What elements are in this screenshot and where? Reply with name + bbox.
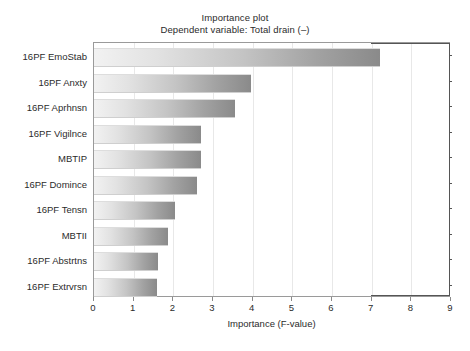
y-axis-tick-label: 16PF Abstrtns: [0, 248, 87, 274]
x-axis-tick-label: 2: [157, 302, 187, 313]
x-axis-tick-label: 6: [316, 302, 346, 313]
importance-plot-chart: Importance plot Dependent variable: Tota…: [0, 0, 470, 351]
bar[interactable]: [94, 278, 157, 297]
x-axis-tick-label: 7: [356, 302, 386, 313]
x-axis-tick: [93, 297, 94, 301]
y-axis-tick-label: 16PF Vigilnce: [0, 121, 87, 147]
x-axis-tick: [212, 297, 213, 301]
x-axis-tick-label: 5: [276, 302, 306, 313]
bar[interactable]: [94, 227, 168, 246]
bar[interactable]: [94, 252, 158, 271]
bar-row[interactable]: [94, 96, 450, 122]
x-axis-tick: [291, 297, 292, 301]
x-axis-tick-label: 1: [118, 302, 148, 313]
bar[interactable]: [94, 125, 201, 144]
x-axis-tick: [331, 297, 332, 301]
x-axis-title: Importance (F-value): [93, 318, 450, 329]
x-axis-tick-label: 0: [78, 302, 108, 313]
bar-row[interactable]: [94, 45, 450, 71]
y-axis-tick-label: MBTII: [0, 223, 87, 249]
plot-area: [93, 42, 450, 297]
y-axis-tick-label: 16PF Domince: [0, 172, 87, 198]
chart-subtitle: Dependent variable: Total drain (–): [0, 24, 470, 36]
y-axis-tick-label: MBTIP: [0, 146, 87, 172]
bar-row[interactable]: [94, 224, 450, 250]
bar[interactable]: [94, 150, 201, 169]
x-axis-tick-label: 3: [197, 302, 227, 313]
x-axis-tick: [172, 297, 173, 301]
x-axis-tick: [410, 297, 411, 301]
y-axis-tick-label: 16PF Aprhnsn: [0, 95, 87, 121]
x-axis-tick-label: 9: [435, 302, 465, 313]
bar[interactable]: [94, 201, 175, 220]
x-axis-tick-label: 4: [237, 302, 267, 313]
y-axis-tick-label: 16PF Anxty: [0, 70, 87, 96]
bar[interactable]: [94, 99, 235, 118]
y-axis-tick-label: 16PF Extrvrsn: [0, 274, 87, 300]
bar-row[interactable]: [94, 173, 450, 199]
x-axis-tick-label: 8: [395, 302, 425, 313]
bar-row[interactable]: [94, 147, 450, 173]
chart-title-block: Importance plot Dependent variable: Tota…: [0, 12, 470, 36]
bar[interactable]: [94, 48, 380, 67]
x-axis-tick: [450, 297, 451, 301]
bar-row[interactable]: [94, 249, 450, 275]
bar-row[interactable]: [94, 122, 450, 148]
bar[interactable]: [94, 74, 251, 93]
bar-row[interactable]: [94, 198, 450, 224]
page-title: Importance plot: [0, 12, 470, 24]
bar-row[interactable]: [94, 71, 450, 97]
bar[interactable]: [94, 176, 197, 195]
x-axis-tick: [371, 297, 372, 301]
bar-row[interactable]: [94, 275, 450, 301]
y-axis-tick-label: 16PF EmoStab: [0, 44, 87, 70]
x-axis-tick: [252, 297, 253, 301]
x-axis-tick: [133, 297, 134, 301]
y-axis-tick-label: 16PF Tensn: [0, 197, 87, 223]
